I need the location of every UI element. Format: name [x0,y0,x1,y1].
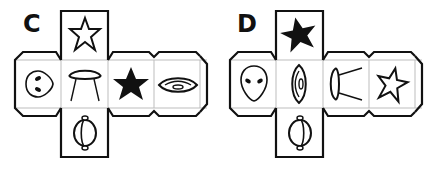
eye-spaceship-icon [157,74,199,96]
star-filled-icon [280,15,320,55]
star-filled-icon [112,65,150,103]
cube-net-d: D [218,0,436,173]
planet-ringed-icon [69,114,101,152]
cube-net-c: C [0,0,218,173]
planet-ringed-icon [284,114,316,152]
alien-head-icon [235,63,273,105]
alien-head-icon [18,64,58,104]
ufo-beam-icon [64,63,106,105]
eye-spaceship-vertical-icon [288,63,310,105]
star-outline-icon [373,64,411,104]
star-outline-icon [68,14,102,56]
ufo-beam-sideways-icon [326,63,368,105]
